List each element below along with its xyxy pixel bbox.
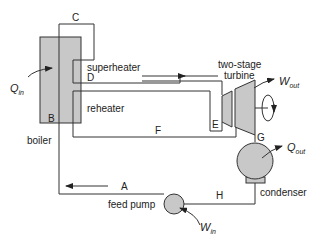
condenser-label: condenser (260, 187, 307, 198)
q-in-label: Qin (10, 82, 24, 96)
boiler-block (40, 37, 81, 123)
w-in-arrow (180, 208, 200, 225)
reheater-label: reheater (87, 103, 125, 114)
turbine-label-2: turbine (224, 70, 255, 81)
superheater-label: superheater (87, 62, 141, 73)
boiler-label: boiler (27, 135, 52, 146)
turbine-hp-stage (222, 91, 232, 127)
state-a-label: A (121, 181, 128, 192)
feed-pump-label: feed pump (108, 199, 156, 210)
state-d-label: D (87, 72, 94, 83)
state-h-label: H (216, 190, 223, 201)
state-g-label: G (257, 132, 265, 143)
state-e-label: E (212, 119, 219, 130)
state-f-label: F (155, 125, 161, 136)
w-out-arrow (254, 79, 274, 88)
w-in-label: Win (200, 221, 216, 235)
rankine-cycle-diagram: boiler B Qin C superheater D reheater E … (0, 0, 326, 249)
feed-pump (164, 194, 184, 214)
feedwater-pipe-a (59, 150, 164, 194)
state-b-label: B (48, 113, 55, 124)
w-out-label: Wout (279, 75, 300, 89)
state-c-label: C (72, 12, 79, 23)
turbine-lp-stage (235, 80, 255, 135)
q-out-label: Qout (287, 141, 306, 155)
turbine-label-1: two-stage (218, 59, 262, 70)
condenser (237, 143, 273, 179)
steam-pipe-c-d (59, 24, 218, 150)
